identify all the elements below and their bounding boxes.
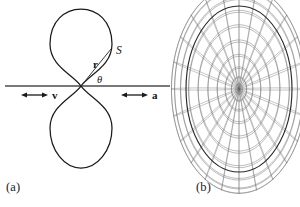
figure-container: S r θ v a (a) (b) [0, 0, 300, 207]
panel-caption-b: (b) [196, 180, 211, 195]
panel-b-diagram [0, 0, 300, 207]
panel-caption-a: (a) [6, 180, 20, 195]
torus-wireframe-mesh [171, 0, 300, 194]
